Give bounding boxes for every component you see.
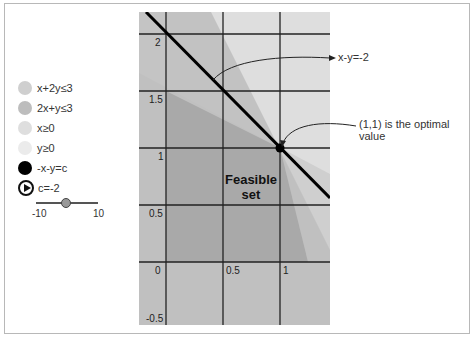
y-tick: 1.5 [149, 94, 163, 105]
x-tick: 0 [155, 265, 161, 276]
swatch-icon [18, 101, 32, 115]
y-tick: 1 [158, 151, 164, 162]
y-tick: 0.5 [149, 208, 163, 219]
swatch-icon [18, 81, 32, 95]
line-annotation: x-y=-2 [338, 51, 369, 63]
legend-item[interactable]: 2x+y≤3 [18, 98, 104, 118]
feasible-label: Feasible set [223, 172, 279, 202]
y-tick: -0.5 [146, 313, 163, 324]
legend-item[interactable]: y≥0 [18, 138, 104, 158]
c-slider[interactable] [36, 198, 98, 208]
legend-item[interactable]: x≥0 [18, 118, 104, 138]
legend-item[interactable]: x+2y≤3 [18, 78, 104, 98]
optimal-annotation: (1,1) is the optimal value [359, 118, 476, 142]
y-tick: 2 [155, 37, 161, 48]
play-control[interactable]: c=-2 [18, 178, 104, 198]
play-icon[interactable] [18, 180, 34, 196]
swatch-icon [18, 161, 32, 175]
legend-item[interactable]: -x-y=c [18, 158, 104, 178]
swatch-icon [18, 141, 32, 155]
x-tick: 0.5 [226, 265, 240, 276]
legend: x+2y≤3 2x+y≤3 x≥0 y≥0 -x-y=c c=-2 -1010 [18, 78, 104, 219]
x-tick: 1 [283, 265, 289, 276]
slider-knob[interactable] [61, 198, 71, 208]
swatch-icon [18, 121, 32, 135]
